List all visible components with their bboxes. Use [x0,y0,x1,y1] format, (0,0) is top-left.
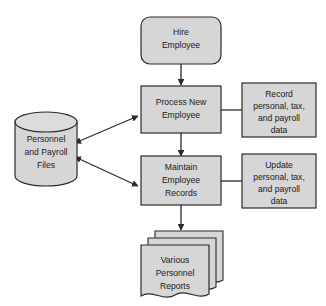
various-personnel-reports-label-line-3: Reports [160,281,190,291]
flowchart-canvas: Hire Employee Process New Employee Recor… [0,0,326,306]
update-data-label-line-2: personal, tax, [253,172,305,182]
personnel-payroll-files-label-line-1: Personnel [27,134,66,144]
node-process-new-employee[interactable]: Process New Employee [141,86,221,133]
node-update-data[interactable]: Update personal, tax, and payroll data [242,154,316,208]
personnel-payroll-files-label-line-2: and Payroll [25,147,68,157]
maintain-employee-records-label-line-1: Maintain [165,162,198,172]
maintain-employee-records-label-line-3: Records [165,188,197,198]
node-record-data[interactable]: Record personal, tax, and payroll data [242,83,316,137]
node-maintain-employee-records[interactable]: Maintain Employee Records [141,156,221,205]
connector-files-to-maintain [75,157,138,186]
process-new-employee-label-line-2: Employee [162,110,200,120]
node-personnel-payroll-files[interactable]: Personnel and Payroll Files [15,112,77,186]
personnel-payroll-files-top [15,112,77,132]
node-hire-employee[interactable]: Hire Employee [141,17,221,64]
maintain-employee-records-label-line-2: Employee [162,175,200,185]
record-data-label-line-1: Record [265,89,293,99]
update-data-label-line-3: and payroll [258,184,300,194]
node-various-personnel-reports[interactable]: Various Personnel Reports [141,231,223,297]
process-new-employee-label-line-1: Process New [156,97,207,107]
personnel-payroll-files-label-line-3: Files [37,160,55,170]
hire-employee-label-line-2: Employee [162,40,200,50]
record-data-label-line-3: and payroll [258,113,300,123]
record-data-label-line-4: data [271,125,288,135]
connector-files-to-process [75,116,138,143]
various-personnel-reports-label-line-2: Personnel [156,268,195,278]
record-data-label-line-2: personal, tax, [253,101,305,111]
update-data-label-line-1: Update [265,160,293,170]
update-data-label-line-4: data [271,196,288,206]
various-personnel-reports-label-line-1: Various [161,255,190,265]
flowchart-diagram: Hire Employee Process New Employee Recor… [0,0,326,306]
hire-employee-label-line-1: Hire [173,27,189,37]
